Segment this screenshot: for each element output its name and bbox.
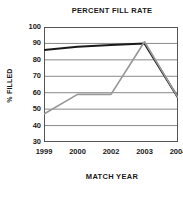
x-tick-label: 1999 [27,147,61,156]
y-tick-label: 40 [19,122,41,130]
x-tick-label: 2002 [94,147,128,156]
plot-area [44,27,178,142]
y-axis-label: % FILLED [6,48,13,124]
series-line-gray-line [44,42,178,114]
y-tick-label: 80 [19,56,41,64]
gridlines [44,43,178,125]
x-tick-label: 2003 [128,147,162,156]
series-lines [44,42,178,114]
chart-title: PERCENT FILL RATE [44,6,180,15]
x-tick-label: 2004 [161,147,183,156]
x-tick-label: 2000 [61,147,95,156]
y-tick-label: 90 [19,39,41,47]
y-tick-label: 70 [19,72,41,80]
y-tick-label: 60 [19,89,41,97]
plot-svg [44,27,178,142]
y-tick-label: 30 [19,138,41,146]
x-axis-label: MATCH YEAR [44,172,180,181]
y-tick-label: 50 [19,105,41,113]
series-line-dark-line [44,43,178,97]
y-tick-label: 100 [19,23,41,31]
percent-fill-rate-chart: PERCENT FILL RATE % FILLED 1009080706050… [0,0,183,197]
